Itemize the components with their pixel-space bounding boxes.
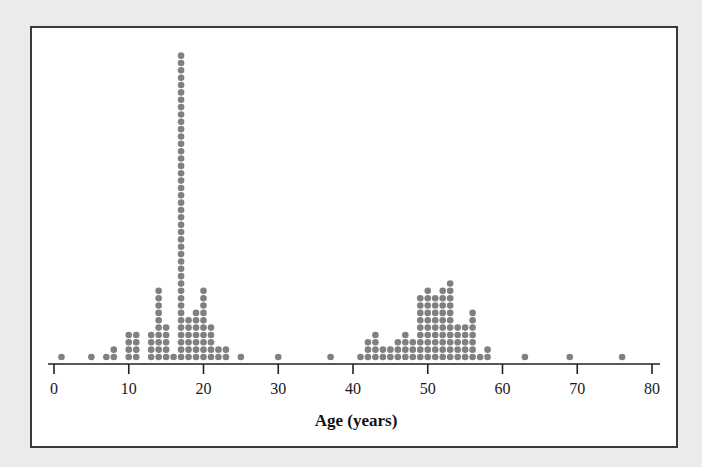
data-dot xyxy=(439,354,446,361)
data-dot xyxy=(469,324,476,331)
data-dot xyxy=(380,354,387,361)
data-dot xyxy=(275,354,282,361)
data-dot xyxy=(424,288,431,295)
data-dot xyxy=(178,236,185,243)
data-dot xyxy=(155,354,162,361)
data-dot xyxy=(462,354,469,361)
x-axis-ticks: 01020304050607080 xyxy=(50,364,660,397)
data-dot xyxy=(208,324,215,331)
data-dot xyxy=(484,346,491,353)
data-dot xyxy=(178,104,185,111)
data-dot xyxy=(447,317,454,324)
data-dot xyxy=(125,346,132,353)
data-dot xyxy=(200,346,207,353)
data-dot xyxy=(439,288,446,295)
data-dot xyxy=(410,339,417,346)
data-dot xyxy=(447,339,454,346)
data-dot xyxy=(178,273,185,280)
data-dot xyxy=(200,339,207,346)
data-dot xyxy=(178,82,185,89)
dots-layer xyxy=(58,52,625,360)
data-dot xyxy=(178,119,185,126)
data-dot xyxy=(155,310,162,317)
data-dot xyxy=(193,346,200,353)
data-dot xyxy=(372,339,379,346)
data-dot xyxy=(178,354,185,361)
data-dot xyxy=(454,332,461,339)
dot-plot: 01020304050607080 Age (years) xyxy=(0,0,702,467)
data-dot xyxy=(178,258,185,265)
data-dot xyxy=(178,310,185,317)
data-dot xyxy=(432,354,439,361)
data-dot xyxy=(178,207,185,214)
data-dot xyxy=(417,302,424,309)
x-tick-label: 50 xyxy=(420,380,436,397)
data-dot xyxy=(469,346,476,353)
data-dot xyxy=(185,317,192,324)
data-dot xyxy=(208,346,215,353)
data-dot xyxy=(410,346,417,353)
data-dot xyxy=(447,295,454,302)
data-dot xyxy=(155,288,162,295)
data-dot xyxy=(178,185,185,192)
data-dot xyxy=(148,346,155,353)
data-dot xyxy=(178,295,185,302)
data-dot xyxy=(365,354,372,361)
data-dot xyxy=(178,266,185,273)
data-dot xyxy=(178,288,185,295)
data-dot xyxy=(178,126,185,133)
data-dot xyxy=(103,354,110,361)
data-dot xyxy=(447,324,454,331)
data-dot xyxy=(439,324,446,331)
data-dot xyxy=(133,332,140,339)
data-dot xyxy=(424,346,431,353)
data-dot xyxy=(155,332,162,339)
data-dot xyxy=(238,354,245,361)
data-dot xyxy=(155,295,162,302)
data-dot xyxy=(193,324,200,331)
data-dot xyxy=(178,148,185,155)
data-dot xyxy=(193,332,200,339)
data-dot xyxy=(58,354,65,361)
data-dot xyxy=(432,317,439,324)
data-dot xyxy=(148,332,155,339)
data-dot xyxy=(447,354,454,361)
data-dot xyxy=(447,288,454,295)
data-dot xyxy=(432,346,439,353)
data-dot xyxy=(111,354,118,361)
x-tick-label: 60 xyxy=(495,380,511,397)
data-dot xyxy=(155,339,162,346)
data-dot xyxy=(619,354,626,361)
data-dot xyxy=(469,332,476,339)
data-dot xyxy=(200,332,207,339)
data-dot xyxy=(447,346,454,353)
data-dot xyxy=(200,324,207,331)
data-dot xyxy=(155,317,162,324)
data-dot xyxy=(469,354,476,361)
data-dot xyxy=(208,332,215,339)
data-dot xyxy=(163,339,170,346)
data-dot xyxy=(200,295,207,302)
data-dot xyxy=(365,339,372,346)
data-dot xyxy=(178,163,185,170)
data-dot xyxy=(200,354,207,361)
data-dot xyxy=(439,317,446,324)
x-axis-title: Age (years) xyxy=(315,411,398,430)
x-tick-label: 70 xyxy=(569,380,585,397)
data-dot xyxy=(178,199,185,206)
data-dot xyxy=(163,332,170,339)
data-dot xyxy=(193,310,200,317)
data-dot xyxy=(193,317,200,324)
data-dot xyxy=(178,324,185,331)
data-dot xyxy=(402,339,409,346)
data-dot xyxy=(178,177,185,184)
data-dot xyxy=(111,346,118,353)
data-dot xyxy=(223,354,230,361)
data-dot xyxy=(178,60,185,67)
data-dot xyxy=(125,332,132,339)
data-dot xyxy=(178,280,185,287)
data-dot xyxy=(432,295,439,302)
data-dot xyxy=(395,346,402,353)
data-dot xyxy=(462,332,469,339)
data-dot xyxy=(178,155,185,162)
